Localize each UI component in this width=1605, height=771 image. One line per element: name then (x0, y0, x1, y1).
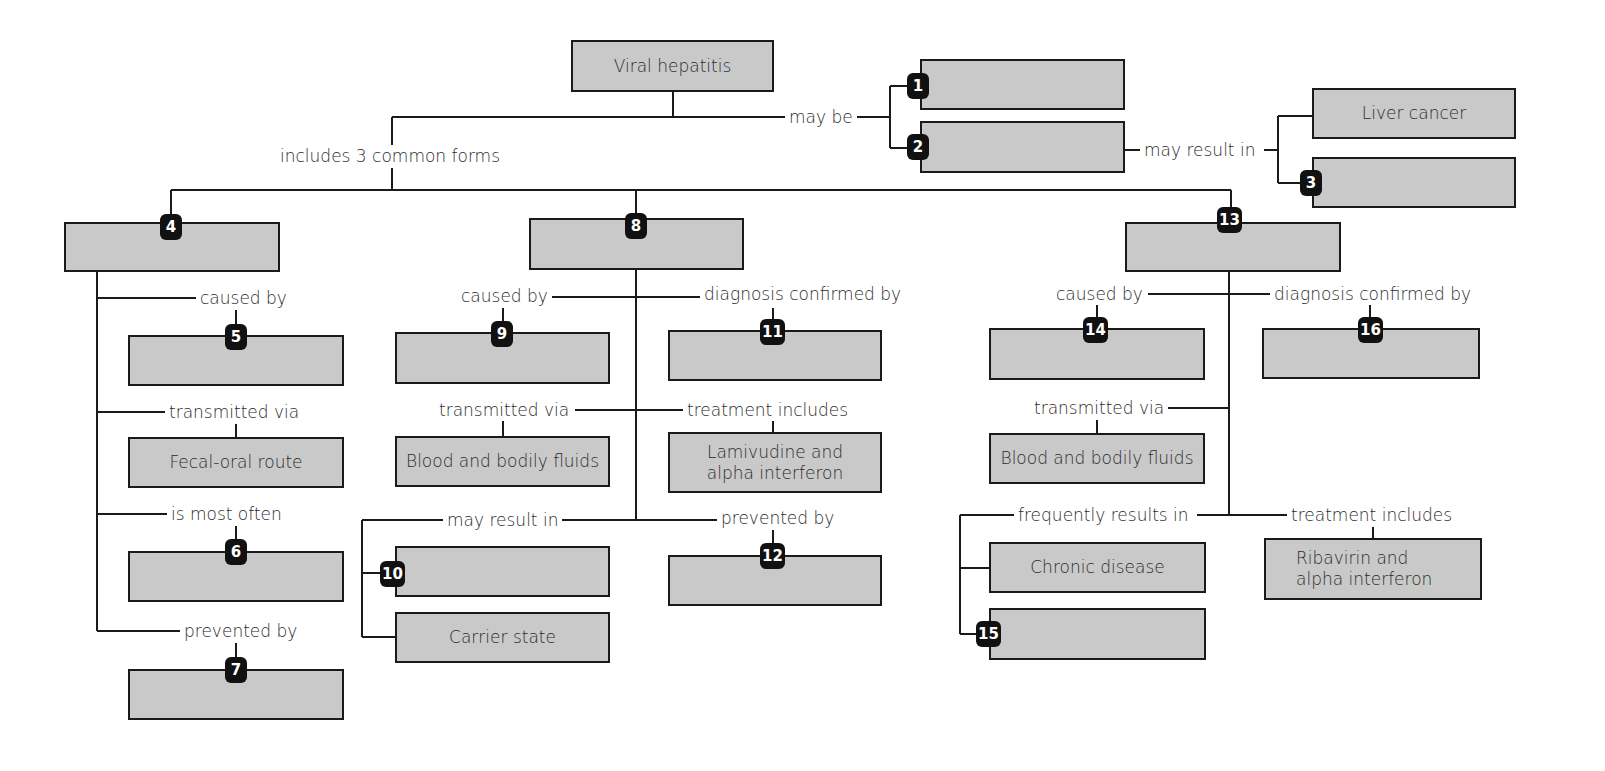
number-badge-1: 1 (907, 73, 929, 99)
number-badge-2: 2 (907, 134, 929, 160)
link-prevented-by-a: prevented by (180, 620, 301, 642)
node-blood-bodily-fluids-c: Blood and bodily fluids (989, 433, 1205, 484)
link-transmitted-via-a: transmitted via (165, 401, 303, 423)
link-includes-forms: includes 3 common forms (276, 145, 504, 167)
link-prevented-by-b: prevented by (717, 507, 838, 529)
node-label: Ribavirin and alpha interferon (1296, 548, 1440, 590)
link-may-result-in-b: may result in (443, 509, 562, 531)
link-may-be: may be (785, 106, 857, 128)
node-carrier-state: Carrier state (395, 612, 610, 663)
root-node-viral-hepatitis: Viral hepatitis (571, 40, 774, 92)
number-badge-12: 12 (760, 543, 785, 569)
answer-box-15[interactable] (989, 608, 1206, 660)
node-chronic-disease: Chronic disease (989, 542, 1206, 593)
answer-box-2[interactable] (920, 121, 1125, 173)
answer-box-3[interactable] (1312, 157, 1516, 208)
link-caused-by-a: caused by (196, 287, 291, 309)
link-transmitted-via-c: transmitted via (1030, 397, 1168, 419)
node-label: Lamivudine and alpha interferon (700, 442, 850, 484)
number-badge-8: 8 (625, 213, 647, 239)
answer-box-10[interactable] (395, 546, 610, 597)
node-label: Carrier state (449, 627, 556, 648)
node-lamivudine: Lamivudine and alpha interferon (668, 432, 882, 493)
node-label: Chronic disease (1030, 557, 1164, 578)
root-node-label: Viral hepatitis (614, 56, 732, 77)
link-treatment-c: treatment includes (1287, 504, 1456, 526)
number-badge-5: 5 (225, 324, 247, 350)
number-badge-7: 7 (225, 657, 247, 683)
node-ribavirin: Ribavirin and alpha interferon (1264, 538, 1482, 600)
node-liver-cancer: Liver cancer (1312, 88, 1516, 139)
number-badge-11: 11 (760, 319, 785, 345)
link-caused-by-b: caused by (457, 285, 552, 307)
link-diagnosis-c: diagnosis confirmed by (1270, 283, 1475, 305)
node-fecal-oral-route: Fecal-oral route (128, 437, 344, 488)
answer-box-1[interactable] (920, 59, 1125, 110)
number-badge-9: 9 (491, 321, 513, 347)
number-badge-16: 16 (1358, 317, 1383, 343)
number-badge-13: 13 (1217, 207, 1242, 233)
number-badge-10: 10 (380, 561, 405, 587)
number-badge-15: 15 (976, 621, 1001, 647)
link-treatment-b: treatment includes (683, 399, 852, 421)
link-frequently-results-in-c: frequently results in (1014, 504, 1193, 526)
link-may-result-in-top: may result in (1140, 139, 1259, 161)
number-badge-6: 6 (225, 539, 247, 565)
number-badge-3: 3 (1300, 170, 1322, 196)
number-badge-4: 4 (160, 214, 182, 240)
number-badge-14: 14 (1083, 317, 1108, 343)
link-is-most-often-a: is most often (167, 503, 286, 525)
link-transmitted-via-b: transmitted via (435, 399, 573, 421)
node-label: Liver cancer (1362, 103, 1466, 124)
node-blood-bodily-fluids-b: Blood and bodily fluids (395, 436, 610, 487)
link-caused-by-c: caused by (1052, 283, 1147, 305)
link-diagnosis-b: diagnosis confirmed by (700, 283, 905, 305)
node-label: Blood and bodily fluids (1001, 448, 1194, 469)
node-label: Blood and bodily fluids (406, 451, 599, 472)
node-label: Fecal-oral route (169, 452, 302, 473)
